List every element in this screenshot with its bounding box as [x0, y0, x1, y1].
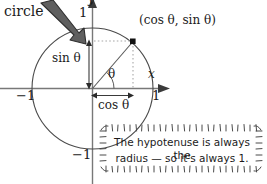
unit-circle-figure: circle (cos θ, sin θ) sin θ cos θ θ x y … — [0, 0, 267, 184]
y-axis-label: y — [88, 0, 95, 5]
x-tick-label-one: 1 — [152, 89, 160, 102]
note-line-2: radius — so it's always 1. — [108, 152, 256, 165]
y-tick-label-one: 1 — [79, 6, 87, 19]
theta-angle-label: θ — [108, 68, 115, 80]
point-coordinate-label: (cos θ, sin θ) — [139, 14, 216, 26]
y-tick-label-negative-one: −1 — [72, 148, 91, 161]
x-axis-label: x — [148, 68, 155, 80]
sin-leg-label: sin θ — [52, 52, 81, 64]
point-marker — [130, 39, 136, 45]
cos-leg-label: cos θ — [98, 99, 129, 111]
sin-measure-arrow — [86, 40, 92, 90]
callout-word-circle: circle — [4, 4, 44, 18]
x-tick-label-negative-one: −1 — [16, 89, 35, 102]
